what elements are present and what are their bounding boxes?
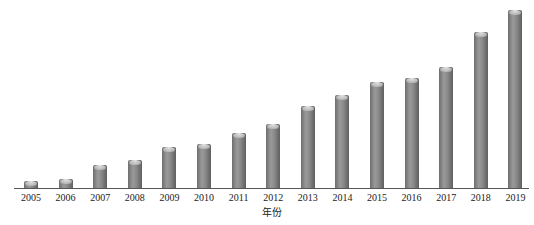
x-tick-label: 2019 bbox=[495, 192, 534, 203]
bar-2007 bbox=[93, 165, 107, 188]
bar-2012 bbox=[266, 124, 280, 188]
bar-2013 bbox=[301, 106, 315, 188]
bar-2010 bbox=[197, 144, 211, 188]
bar-2006 bbox=[59, 179, 73, 188]
bar-2008 bbox=[128, 160, 142, 188]
bar-2019 bbox=[508, 10, 522, 188]
bar-2017 bbox=[439, 67, 453, 188]
bar-2016 bbox=[405, 78, 419, 188]
bar-chart: 2005200620072008200920102011201220132014… bbox=[0, 0, 534, 225]
bar-2014 bbox=[335, 95, 349, 188]
figure-caption-faded bbox=[90, 214, 450, 222]
bar-2011 bbox=[232, 133, 246, 188]
bar-2018 bbox=[474, 32, 488, 188]
bar-2009 bbox=[162, 147, 176, 188]
bar-2015 bbox=[370, 82, 384, 188]
bar-2005 bbox=[24, 181, 38, 188]
x-axis-line bbox=[14, 188, 529, 189]
